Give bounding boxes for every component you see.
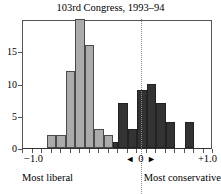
histogram-bar [94, 129, 104, 148]
x-axis-tick [51, 149, 52, 153]
zero-marker-label: 0 [138, 153, 144, 164]
histogram-bar [75, 19, 85, 148]
plot-area [22, 20, 212, 149]
x-axis-tick [79, 149, 80, 153]
x-axis-tick [89, 149, 90, 153]
y-axis-tick-label: 10 [1, 80, 17, 90]
x-axis-tick [98, 149, 99, 153]
right-triangle-icon: ► [147, 154, 156, 164]
y-axis-tick [18, 117, 23, 118]
histogram-bar [56, 135, 66, 148]
histogram-bar [118, 103, 128, 148]
histogram-bar [104, 135, 114, 148]
y-axis-tick-label: 15 [1, 47, 17, 57]
x-axis-label-right: +1.0 [198, 153, 217, 165]
histogram-bar [156, 103, 166, 148]
bars-layer [23, 21, 211, 148]
x-axis-tick [60, 149, 61, 153]
y-axis-tick [18, 85, 23, 86]
histogram-figure: 103rd Congress, 1993–94 151050 −1.0 +1.0… [0, 0, 221, 194]
x-axis-label-left: −1.0 [24, 153, 43, 165]
x-axis-tick [174, 149, 175, 153]
left-triangle-icon: ◄ [126, 154, 135, 164]
x-axis-tick [193, 149, 194, 153]
histogram-bar [47, 135, 57, 148]
histogram-bar [166, 122, 176, 148]
x-axis-tick [184, 149, 185, 153]
x-axis-tick [117, 149, 118, 153]
y-axis-tick [18, 52, 23, 53]
y-axis-tick-label: 0 [1, 144, 17, 154]
x-axis-tick [70, 149, 71, 153]
histogram-bar [85, 45, 95, 148]
histogram-bar [147, 84, 157, 149]
zero-reference-line [141, 19, 142, 194]
x-axis-tick [165, 149, 166, 153]
caption-most-conservative: Most conservative [144, 172, 221, 184]
histogram-bar [185, 122, 195, 148]
y-axis-tick [18, 149, 23, 150]
histogram-bar [128, 129, 138, 148]
page-title: 103rd Congress, 1993–94 [0, 2, 221, 14]
y-axis-tick-label: 5 [1, 112, 17, 122]
histogram-bar [66, 71, 76, 148]
zero-marker: ◄ 0 ► [126, 153, 157, 165]
y-axis-labels: 151050 [0, 0, 17, 194]
x-axis-tick [108, 149, 109, 153]
caption-most-liberal: Most liberal [22, 172, 73, 184]
